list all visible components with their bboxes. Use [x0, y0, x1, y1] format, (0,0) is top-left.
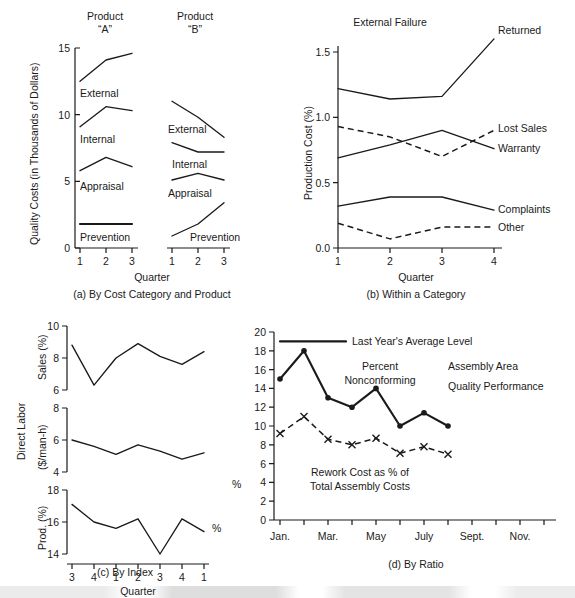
- chart-b-label-other: Other: [498, 221, 525, 233]
- chart-b-yticks: [333, 52, 338, 248]
- chart-a-yticks: [75, 48, 80, 248]
- chart-a-xtick-b-1: 1: [169, 255, 175, 267]
- chart-c-sub2-yaxis: [62, 408, 67, 472]
- chart-b-label-complaints: Complaints: [498, 203, 551, 215]
- chart-d-marker-dot: [325, 395, 331, 401]
- chart-panel-d: % 20 18 16 14 12 10 8 6 4 2 0 Jan. Mar. …: [230, 300, 575, 598]
- chart-d-label-rework-line1: Rework Cost as % of: [311, 466, 409, 478]
- chart-a-series-product-b-internal: [172, 143, 224, 152]
- chart-d-yticks: [269, 332, 274, 520]
- chart-c-sub2-ytick-6: 6: [53, 434, 59, 446]
- chart-a-series-product-a-appraisal: [80, 157, 132, 170]
- chart-b-series-complaints: [338, 197, 494, 210]
- chart-a-label-b-appraisal: Appraisal: [168, 187, 212, 199]
- chart-b-xaxis: [338, 248, 502, 253]
- chart-a-xtick-a-3: 3: [129, 255, 135, 267]
- chart-a-label-a-prevention: Prevention: [80, 231, 130, 243]
- chart-d-xtick-mar: Mar.: [318, 530, 338, 542]
- chart-a-series-product-b-appraisal: [172, 173, 224, 180]
- chart-a-xlabel: Quarter: [134, 271, 170, 283]
- chart-a-ytick-10: 10: [58, 109, 70, 121]
- chart-d-marker-dot: [277, 376, 283, 382]
- chart-b-series-other: [338, 223, 494, 239]
- chart-b-series-warranty: [338, 130, 494, 157]
- chart-d-svg: % 20 18 16 14 12 10 8 6 4 2 0 Jan. Mar. …: [230, 300, 575, 598]
- chart-a-ylabel: Quality Costs (in Thousands of Dollars): [28, 63, 40, 245]
- chart-a-label-b-external: External: [168, 123, 207, 135]
- chart-c-unit-label-percent: %: [212, 522, 221, 534]
- chart-d-marker-dot: [373, 386, 379, 392]
- chart-a-xtick-a-2: 2: [103, 255, 109, 267]
- chart-c-ylabel-outer: Direct Labor: [15, 402, 27, 460]
- chart-a-series-product-a-external: [80, 53, 132, 81]
- chart-panel-c: Direct Labor Sales (%) 10 8 6 ($/man-h) …: [0, 300, 250, 598]
- chart-a-header-product-a-line2: “A”: [98, 23, 113, 35]
- chart-b-caption: (b) Within a Category: [366, 288, 466, 300]
- chart-c-sub2-ytick-4: 4: [53, 466, 59, 478]
- chart-a-xaxis-product-b: [167, 248, 230, 253]
- chart-d-marker-x: [301, 413, 308, 420]
- chart-d-xtick-jan: Jan.: [270, 530, 290, 542]
- chart-a-xaxis-product-a: [75, 248, 138, 253]
- chart-b-ylabel: Production Cost (%): [302, 106, 314, 200]
- chart-a-label-b-internal: Internal: [172, 158, 207, 170]
- chart-c-caption: (c) By Index: [97, 566, 153, 578]
- chart-c-sub3-ytick-16: 16: [47, 516, 59, 528]
- chart-d-ytick-8: 8: [260, 439, 266, 451]
- chart-b-xtick-1: 1: [335, 255, 341, 267]
- chart-b-xtick-2: 2: [387, 255, 393, 267]
- chart-d-ytick-10: 10: [254, 420, 266, 432]
- chart-d-marker-dot: [349, 404, 355, 410]
- chart-d-ytick-14: 14: [254, 382, 266, 394]
- chart-d-marker-dot: [397, 423, 403, 429]
- chart-d-ytick-2: 2: [260, 495, 266, 507]
- chart-d-marker-x: [277, 430, 284, 437]
- chart-d-label-percent-line1: Percent: [362, 360, 398, 372]
- chart-a-series-product-a-internal: [80, 107, 132, 127]
- chart-d-marker-x-group: [277, 413, 452, 458]
- chart-d-xtick-july: July: [415, 530, 434, 542]
- chart-d-marker-dot: [301, 348, 307, 354]
- chart-d-caption: (d) By Ratio: [388, 558, 444, 570]
- chart-b-xtick-3: 3: [439, 255, 445, 267]
- chart-d-title-line2: Quality Performance: [448, 380, 544, 392]
- chart-b-ytick-0p0: 0.0: [315, 242, 330, 254]
- chart-c-svg: Direct Labor Sales (%) 10 8 6 ($/man-h) …: [0, 300, 250, 598]
- chart-a-label-a-internal: Internal: [80, 133, 115, 145]
- chart-a-ytick-15: 15: [58, 42, 70, 54]
- chart-panel-a: Quality Costs (in Thousands of Dollars) …: [0, 0, 290, 300]
- chart-c-sub1-yaxis: [62, 326, 67, 390]
- chart-d-ytick-18: 18: [254, 345, 266, 357]
- chart-d-xaxis: [274, 520, 556, 525]
- chart-c-sub3-ytick-18: 18: [47, 484, 59, 496]
- chart-d-label-percent-line2: Nonconforming: [344, 374, 415, 386]
- chart-d-marker-dot: [445, 423, 451, 429]
- chart-c-caption-wrap: (c) By Index: [0, 562, 250, 580]
- chart-a-ytick-0: 0: [64, 242, 70, 254]
- chart-c-sub3-yaxis: [62, 490, 67, 554]
- chart-a-xtick-b-3: 3: [221, 255, 227, 267]
- chart-b-label-returned: Returned: [498, 24, 541, 36]
- chart-c-sub1-ytick-8: 8: [53, 352, 59, 364]
- chart-d-marker-x: [445, 451, 452, 458]
- chart-c-sub3-ytick-14: 14: [47, 548, 59, 560]
- chart-a-label-a-external: External: [80, 87, 119, 99]
- chart-b-label-warranty: Warranty: [498, 142, 541, 154]
- chart-c-sub1-ylabel: Sales (%): [36, 334, 48, 380]
- chart-c-series-sales: [72, 344, 204, 386]
- chart-a-ytick-5: 5: [64, 175, 70, 187]
- chart-a-svg: Quality Costs (in Thousands of Dollars) …: [0, 0, 290, 300]
- chart-c-sub1-ytick-10: 10: [47, 320, 59, 332]
- chart-panel-b: Production Cost (%) External Failure 1.5…: [290, 0, 575, 300]
- chart-d-marker-dot: [421, 410, 427, 416]
- chart-d-xtick-nov: Nov.: [510, 530, 531, 542]
- chart-d-xtick-may: May: [366, 530, 387, 542]
- chart-a-xtick-b-2: 2: [195, 255, 201, 267]
- chart-a-caption: (a) By Cost Category and Product: [73, 288, 231, 300]
- chart-d-ytick-4: 4: [260, 476, 266, 488]
- chart-d-label-rework-line2: Total Assembly Costs: [310, 480, 410, 492]
- chart-d-ytick-6: 6: [260, 458, 266, 470]
- chart-c-series-productivity: [72, 504, 204, 554]
- chart-a-header-product-a-line1: Product: [87, 10, 123, 22]
- chart-b-title: External Failure: [353, 16, 427, 28]
